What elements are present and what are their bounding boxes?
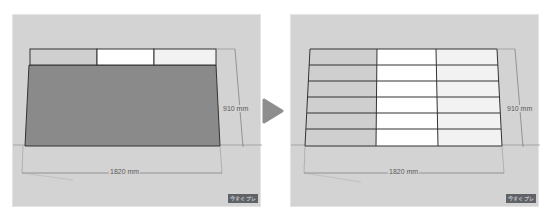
overlay-badge: 今すぐプレ	[228, 194, 258, 203]
overlay-badge: 今すぐプレ	[506, 194, 536, 203]
width-dimension-label: 1820 mm	[388, 168, 419, 175]
after-viewport: 910 mm 1820 mm 今すぐプレ	[290, 14, 539, 207]
after-drawing	[291, 15, 540, 208]
height-dimension-label: 910 mm	[222, 105, 249, 112]
height-dimension-label: 910 mm	[506, 105, 533, 112]
before-viewport: 910 mm 1820 mm 今すぐプレ	[12, 14, 261, 207]
width-dimension-label: 1820 mm	[109, 168, 140, 175]
play-arrow-icon	[262, 98, 284, 128]
